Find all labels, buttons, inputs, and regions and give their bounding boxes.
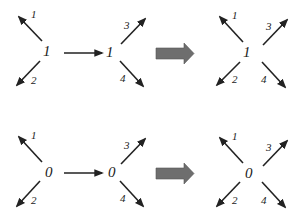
vertex-label: 1 xyxy=(106,44,114,60)
middle-vertex: 0 3 4 xyxy=(108,139,145,206)
left-vertex: 1 2 1 xyxy=(17,8,51,86)
leg-2-label: 2 xyxy=(31,194,37,206)
leg-4-label: 4 xyxy=(261,73,267,85)
vertex-label: 0 xyxy=(108,164,116,180)
result-block-arrow xyxy=(156,43,194,64)
vertex-label: 0 xyxy=(245,165,253,181)
vertex-merge-diagram: 1 2 1 1 3 4 1 2 xyxy=(0,0,303,213)
leg-3-label: 3 xyxy=(265,141,272,153)
vertex-label: 0 xyxy=(45,164,53,180)
leg-1-label: 1 xyxy=(232,9,238,21)
result-block-arrow xyxy=(156,163,194,184)
vertex-label: 1 xyxy=(43,43,51,59)
row-2: 1 2 0 0 3 4 1 2 3 4 xyxy=(17,129,287,207)
leg-2-arrow xyxy=(17,181,40,206)
vertex-label: 1 xyxy=(243,44,251,60)
leg-4-label: 4 xyxy=(120,192,126,204)
left-vertex: 1 2 0 xyxy=(17,129,53,206)
leg-1-label: 1 xyxy=(232,130,238,142)
diagram-canvas: 1 2 1 1 3 4 1 2 xyxy=(0,0,303,213)
leg-3-label: 3 xyxy=(123,19,130,31)
leg-4-label: 4 xyxy=(261,194,267,206)
leg-3-label: 3 xyxy=(123,139,130,151)
row-1: 1 2 1 1 3 4 1 2 xyxy=(17,8,287,87)
leg-2-label: 2 xyxy=(31,74,37,86)
leg-2-label: 2 xyxy=(232,73,238,85)
leg-1-label: 1 xyxy=(31,129,37,141)
leg-4-label: 4 xyxy=(120,72,126,84)
merged-vertex: 1 2 3 4 1 xyxy=(217,9,287,87)
merged-vertex: 1 2 3 4 0 xyxy=(217,130,287,207)
leg-1-label: 1 xyxy=(31,8,37,20)
middle-vertex: 1 3 4 xyxy=(106,19,145,86)
leg-3-label: 3 xyxy=(265,20,272,32)
leg-1-arrow xyxy=(19,17,42,41)
leg-2-arrow xyxy=(17,61,40,85)
leg-2-label: 2 xyxy=(232,194,238,206)
